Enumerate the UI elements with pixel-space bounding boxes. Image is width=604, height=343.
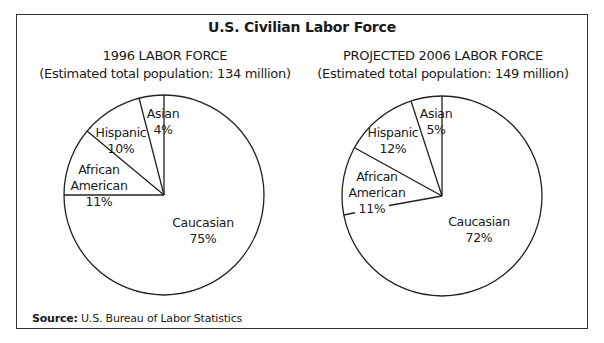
pie-charts: Asian 4% Hispanic 10% African American 1… xyxy=(0,0,604,343)
right-label-caucasian-name: Caucasian xyxy=(448,214,510,229)
left-label-hispanic-name: Hispanic xyxy=(96,125,147,140)
left-label-african-name-1: African xyxy=(78,162,119,177)
right-label-hispanic-value: 12% xyxy=(380,141,407,156)
right-label-african-name-1: African xyxy=(356,169,397,184)
right-label-african-name-2: American xyxy=(348,185,405,200)
left-label-asian-name: Asian xyxy=(147,106,180,121)
left-label-african-name-2: American xyxy=(70,178,127,193)
right-label-asian-value: 5% xyxy=(426,122,446,137)
left-label-caucasian-value: 75% xyxy=(190,231,217,246)
right-label-hispanic-name: Hispanic xyxy=(368,125,419,140)
left-label-caucasian-name: Caucasian xyxy=(172,215,234,230)
right-label-african-value: 11% xyxy=(359,201,386,216)
left-label-hispanic-value: 10% xyxy=(108,141,135,156)
left-label-asian-value: 4% xyxy=(153,122,173,137)
right-label-asian-name: Asian xyxy=(420,106,453,121)
source-label: Source: xyxy=(32,312,78,325)
right-label-caucasian-value: 72% xyxy=(466,230,493,245)
source-text: U.S. Bureau of Labor Statistics xyxy=(78,312,242,325)
left-label-african-value: 11% xyxy=(86,194,113,209)
source-note: Source: U.S. Bureau of Labor Statistics xyxy=(32,312,242,325)
